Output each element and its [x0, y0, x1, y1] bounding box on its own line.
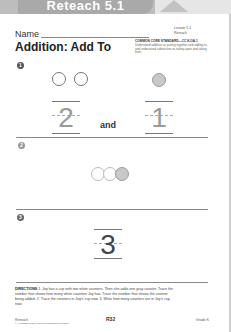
- name-label: Name: [15, 29, 39, 39]
- counter-gray: [152, 73, 166, 87]
- page-title: Addition: Add To: [15, 40, 111, 54]
- standard-text: Understand addition as putting together …: [135, 43, 207, 55]
- footer-grade: Grade K: [196, 318, 209, 322]
- counter-white: [52, 72, 66, 86]
- problem-1-badge: 1: [17, 62, 24, 69]
- lesson-info: Lesson 5.1 Reteach: [174, 26, 191, 35]
- guide-line: [145, 133, 173, 134]
- directions-label: DIRECTIONS: [15, 287, 37, 291]
- section-divider: [16, 282, 208, 283]
- guide-line: [52, 133, 80, 134]
- lesson-number: Lesson 5.1: [174, 26, 191, 31]
- page-edge: [229, 14, 231, 332]
- trace-box-left[interactable]: 2: [52, 101, 80, 135]
- directions-text: 1. Joy has a cup with two white counters…: [15, 287, 173, 306]
- counter-gray[interactable]: [115, 167, 129, 181]
- answer-digit-3: 3: [94, 231, 122, 259]
- banner-title: Reteach 5.1: [18, 0, 153, 14]
- counter-white: [74, 72, 88, 86]
- directions: DIRECTIONS 1. Joy has a cup with two whi…: [15, 287, 175, 307]
- name-field[interactable]: [41, 37, 149, 38]
- trace-digit-2: 2: [52, 104, 80, 132]
- triangle-logo-icon: [160, 0, 188, 12]
- common-core-standard: COMMON CORE STANDARD—CC.K.OA.1 Understan…: [135, 40, 213, 55]
- footer-left: Reteach © Houghton Mifflin Harcourt Publ…: [15, 318, 69, 326]
- trace-digit-1: 1: [145, 104, 173, 132]
- and-label: and: [100, 120, 116, 130]
- lesson-type: Reteach: [174, 31, 191, 36]
- footer-copyright: © Houghton Mifflin Harcourt Publishing C…: [15, 322, 69, 326]
- answer-box[interactable]: 3: [94, 229, 122, 261]
- page-number: R32: [106, 316, 115, 322]
- problem-2-badge: 2: [18, 142, 25, 149]
- problem-3-badge: 3: [17, 214, 24, 221]
- section-divider: [16, 137, 208, 138]
- section-divider: [16, 209, 208, 210]
- trace-box-right[interactable]: 1: [145, 101, 173, 135]
